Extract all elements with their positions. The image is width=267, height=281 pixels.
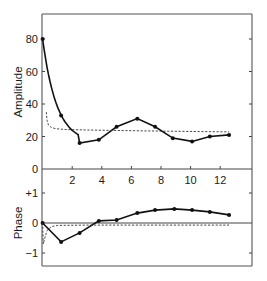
chart-frame <box>42 14 252 266</box>
phase-tick-label: −1 <box>25 247 38 259</box>
amplitude-tick-label: 20 <box>26 131 38 143</box>
data-point-marker <box>97 219 101 223</box>
x-tick-label: 12 <box>214 174 226 186</box>
phase-tick-label: 0 <box>32 217 38 229</box>
phase-tick-label: +1 <box>25 187 38 199</box>
amplitude-tick-label: 40 <box>26 98 38 110</box>
amplitude-tick-label: 0 <box>32 163 38 175</box>
amplitude-tick-label: 80 <box>26 33 38 45</box>
data-point-marker <box>208 210 212 214</box>
data-point-marker <box>190 208 194 212</box>
data-point-marker <box>227 213 231 217</box>
amplitude-phase-chart: 020406080 24681012 +10−1 Amplitude Phase <box>0 0 267 281</box>
data-point-marker <box>78 231 82 235</box>
data-point-marker <box>59 240 63 244</box>
data-point-marker <box>135 211 139 215</box>
x-tick-label: 10 <box>184 174 196 186</box>
data-point-marker <box>190 139 194 143</box>
x-tick-label: 8 <box>158 174 164 186</box>
data-point-marker <box>208 135 212 139</box>
data-point-marker <box>172 207 176 211</box>
data-point-marker <box>115 125 119 129</box>
x-tick-label: 2 <box>69 174 75 186</box>
model-dashed-line <box>46 112 229 132</box>
data-point-marker <box>59 113 63 117</box>
data-point-marker <box>171 136 175 140</box>
phase-axis-title: Phase <box>12 207 24 240</box>
data-point-marker <box>115 218 119 222</box>
amplitude-y-ticks: 020406080 <box>26 33 252 175</box>
data-point-marker <box>153 208 157 212</box>
data-point-marker <box>78 141 82 145</box>
phase-series <box>41 207 231 244</box>
x-tick-label: 4 <box>99 174 105 186</box>
data-point-marker <box>227 133 231 137</box>
data-point-marker <box>135 117 139 121</box>
amplitude-tick-label: 60 <box>26 66 38 78</box>
data-point-marker <box>153 125 157 129</box>
amplitude-series <box>41 37 231 145</box>
x-tick-label: 6 <box>128 174 134 186</box>
data-point-marker <box>97 138 101 142</box>
amplitude-axis-title: Amplitude <box>12 66 24 117</box>
model-dashed-line <box>43 223 230 244</box>
data-point-marker <box>41 37 45 41</box>
measured-line <box>43 39 230 143</box>
